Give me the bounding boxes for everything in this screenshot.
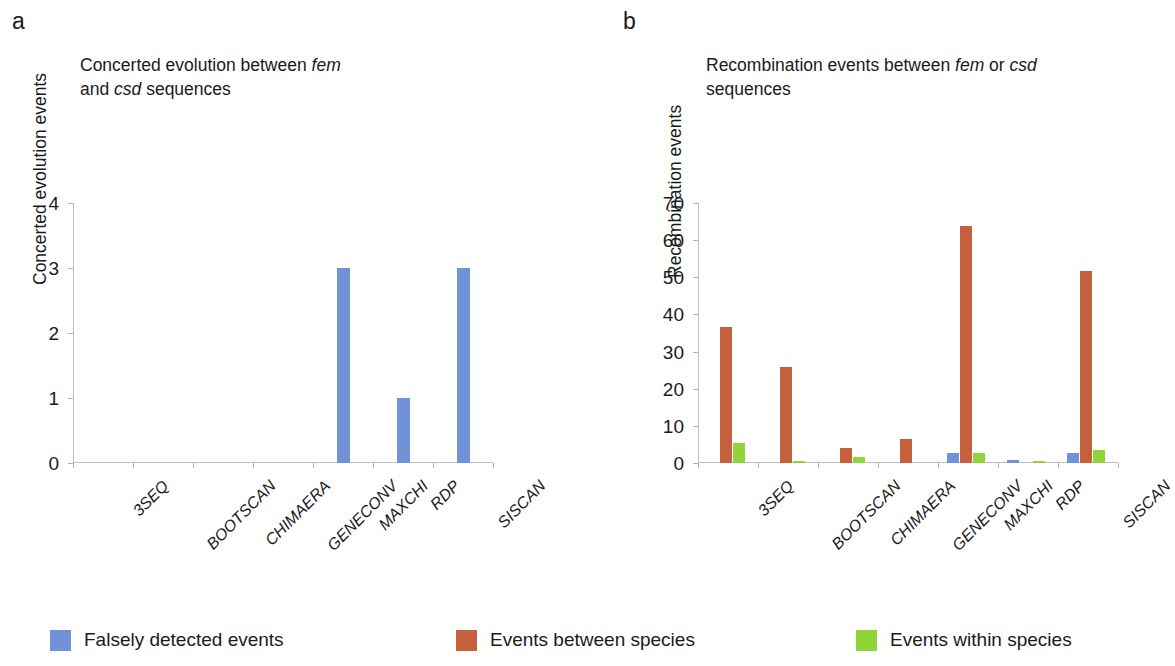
- panel-b-title: Recombination events between fem or csd …: [706, 53, 1126, 101]
- y-tick-a: 2: [68, 333, 73, 334]
- legend-swatch-within-species-icon: [856, 630, 877, 651]
- x-tick-a: [133, 463, 134, 468]
- x-tick-b: [1058, 463, 1059, 468]
- legend-item-between-species: Events between species: [456, 626, 695, 654]
- panel-a-title: Concerted evolution between fem and csd …: [80, 53, 500, 101]
- y-tick-label-b: 40: [663, 305, 684, 324]
- y-tick-label-b: 10: [663, 416, 684, 435]
- plot-area-a: 012343SEQBOOTSCANCHIMAERAGENECONVMAXCHIR…: [73, 203, 493, 463]
- y-axis-line-a: [73, 203, 74, 463]
- panel-b-title-gene-csd: csd: [1010, 55, 1037, 75]
- y-tick-label-a: 0: [48, 454, 59, 473]
- x-tick-b: [698, 463, 699, 468]
- panel-a-title-gene-fem: fem: [312, 55, 341, 75]
- x-tick-a: [73, 463, 74, 468]
- legend-label-falsely-detected: Falsely detected events: [84, 629, 284, 651]
- y-tick-b: 60: [693, 240, 698, 241]
- chart-panel-b: 0102030405060703SEQBOOTSCANCHIMAERAGENEC…: [620, 180, 1175, 600]
- bar-b-maxchi-events-within-species: [973, 453, 985, 463]
- chart-panel-a: 012343SEQBOOTSCANCHIMAERAGENECONVMAXCHIR…: [0, 180, 560, 600]
- panel-a-title-line2-pre: and: [80, 79, 114, 99]
- bar-b-rdp-falsely-detected-events: [1007, 460, 1019, 463]
- x-tick-b: [998, 463, 999, 468]
- figure-legend: Falsely detected events Events between s…: [50, 626, 1150, 656]
- y-tick-label-b: 70: [663, 194, 684, 213]
- panel-b-title-line1-pre: Recombination events between: [706, 55, 955, 75]
- x-tick-b: [878, 463, 879, 468]
- legend-swatch-between-species-icon: [456, 630, 477, 651]
- x-category-label-b-3seq: 3SEQ: [755, 477, 798, 520]
- x-category-label-a-3seq: 3SEQ: [130, 477, 173, 520]
- bar-b-chimaera-events-within-species: [853, 457, 865, 463]
- bar-b-maxchi-falsely-detected-events: [947, 453, 959, 463]
- y-tick-label-b: 0: [673, 454, 684, 473]
- legend-label-within-species: Events within species: [890, 629, 1072, 651]
- bar-b-siscan-events-within-species: [1093, 450, 1105, 463]
- y-tick-label-b: 50: [663, 268, 684, 287]
- y-tick-label-b: 30: [663, 342, 684, 361]
- y-axis-line-b: [698, 203, 699, 463]
- bar-b-bootscan-events-between-species: [780, 367, 792, 463]
- legend-label-between-species: Events between species: [490, 629, 695, 651]
- legend-swatch-falsely-detected-icon: [50, 630, 71, 651]
- y-tick-label-b: 20: [663, 379, 684, 398]
- y-tick-b: 10: [693, 426, 698, 427]
- x-tick-a: [193, 463, 194, 468]
- bar-a-rdp-falsely-detected-events: [397, 398, 410, 463]
- y-tick-label-a: 4: [48, 194, 59, 213]
- x-category-label-b-rdp: RDP: [1052, 477, 1089, 514]
- bar-a-siscan-falsely-detected-events: [457, 268, 470, 463]
- y-tick-a: 1: [68, 398, 73, 399]
- bar-a-maxchi-falsely-detected-events: [337, 268, 350, 463]
- bar-b-bootscan-events-within-species: [793, 461, 805, 463]
- bar-b-geneconv-events-between-species: [900, 439, 912, 464]
- y-tick-b: 40: [693, 314, 698, 315]
- x-category-label-a-siscan: SISCAN: [494, 477, 549, 532]
- y-tick-b: 70: [693, 203, 698, 204]
- x-tick-a: [253, 463, 254, 468]
- x-tick-a: [493, 463, 494, 468]
- x-tick-b: [758, 463, 759, 468]
- panel-b-title-line2: sequences: [706, 79, 791, 99]
- bar-b-3seq-events-between-species: [720, 327, 732, 463]
- bar-b-chimaera-events-between-species: [840, 448, 852, 463]
- x-tick-a: [433, 463, 434, 468]
- bar-b-siscan-events-between-species: [1080, 271, 1092, 463]
- panel-b-title-gene-fem: fem: [955, 55, 984, 75]
- x-tick-b: [818, 463, 819, 468]
- y-tick-label-b: 60: [663, 231, 684, 250]
- legend-item-falsely-detected: Falsely detected events: [50, 626, 284, 654]
- y-tick-b: 20: [693, 389, 698, 390]
- y-tick-b: 50: [693, 277, 698, 278]
- panel-a-title-line2-post: sequences: [141, 79, 231, 99]
- x-tick-a: [373, 463, 374, 468]
- bar-b-rdp-events-within-species: [1033, 461, 1045, 463]
- x-category-label-b-siscan: SISCAN: [1119, 477, 1174, 532]
- y-tick-a: 4: [68, 203, 73, 204]
- panel-a-title-line1-pre: Concerted evolution between: [80, 55, 312, 75]
- panel-b-title-line1-mid: or: [984, 55, 1009, 75]
- panel-label-b: b: [623, 10, 636, 33]
- plot-area-b: 0102030405060703SEQBOOTSCANCHIMAERAGENEC…: [698, 203, 1118, 463]
- bar-b-3seq-events-within-species: [733, 443, 745, 463]
- x-tick-a: [313, 463, 314, 468]
- y-tick-a: 3: [68, 268, 73, 269]
- bar-b-siscan-falsely-detected-events: [1067, 453, 1079, 463]
- x-tick-b: [938, 463, 939, 468]
- y-tick-b: 30: [693, 352, 698, 353]
- x-tick-b: [1118, 463, 1119, 468]
- x-category-label-a-rdp: RDP: [427, 477, 464, 514]
- x-axis-line-a: [73, 462, 493, 463]
- panel-a-title-gene-csd: csd: [114, 79, 141, 99]
- y-tick-label-a: 3: [48, 259, 59, 278]
- bar-b-maxchi-events-between-species: [960, 226, 972, 463]
- y-tick-label-a: 1: [48, 389, 59, 408]
- panel-label-a: a: [12, 10, 25, 33]
- legend-item-within-species: Events within species: [856, 626, 1072, 654]
- y-tick-label-a: 2: [48, 324, 59, 343]
